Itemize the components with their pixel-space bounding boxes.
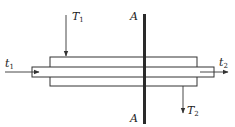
hot-inlet-label: T1 — [72, 10, 84, 24]
hot-outlet-label: T2 — [187, 104, 199, 118]
section-label-top: A — [129, 10, 138, 23]
heat-exchanger-diagram: T1 T2 t1 t2 A A — [0, 0, 235, 127]
section-label-bottom: A — [129, 112, 138, 125]
cold-outlet-label: t2 — [219, 56, 228, 70]
cold-inlet-label: t1 — [5, 57, 14, 71]
inner-tube — [32, 67, 214, 77]
section-line-a-a — [143, 14, 146, 124]
